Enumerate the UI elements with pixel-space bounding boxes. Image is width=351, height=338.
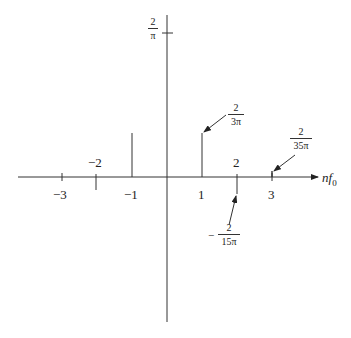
tick-label-p1: 1 <box>198 188 205 201</box>
y-tick-label: 2 π <box>148 17 158 41</box>
x-axis-label-text: nf <box>322 170 332 185</box>
annotation-n2-den: 15π <box>218 235 240 247</box>
annotation-n2-num: 2 <box>218 223 240 235</box>
spectrum-plot <box>0 0 351 338</box>
tick-label-m2: −2 <box>88 156 102 169</box>
tick-label-p3: 3 <box>268 188 275 201</box>
x-axis-label: nf0 <box>322 170 337 188</box>
y-tick-den: π <box>148 29 158 41</box>
annotation-2-over-3pi: 2 3π <box>228 103 244 127</box>
annotation-2-over-35pi: 2 35π <box>290 127 312 151</box>
arrow-2-over-15pi <box>229 196 236 225</box>
annotation-n3-num: 2 <box>290 127 312 139</box>
y-tick-num: 2 <box>148 17 158 29</box>
arrow-2-over-3pi <box>204 115 226 132</box>
annotation-2-over-15pi: 2 15π <box>218 223 240 247</box>
arrow-2-over-35pi <box>274 155 295 171</box>
annotation-n1-den: 3π <box>228 115 244 127</box>
annotation-n1-num: 2 <box>228 103 244 115</box>
x-axis-label-sub: 0 <box>332 178 337 188</box>
tick-label-m3: −3 <box>53 188 67 201</box>
annotation-n3-den: 35π <box>290 139 312 151</box>
annotation-n2-sign: − <box>208 229 214 241</box>
tick-label-m1: −1 <box>124 188 138 201</box>
tick-label-p2: 2 <box>233 156 240 169</box>
